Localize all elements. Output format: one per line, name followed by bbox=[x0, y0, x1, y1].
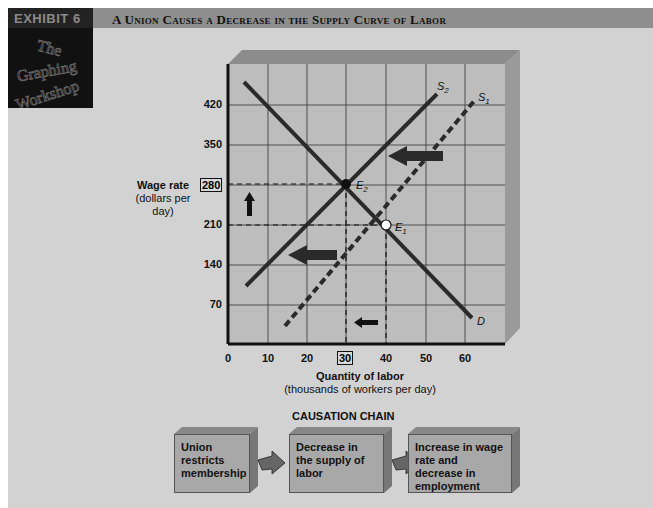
chain-step-3: Increase in wage rate and decrease in em… bbox=[408, 434, 512, 493]
chain-arrow-1 bbox=[258, 451, 285, 474]
chain-step-1: Union restricts membership bbox=[174, 434, 250, 493]
causation-chain-3d bbox=[0, 0, 653, 508]
chain-step-2: Decrease in the supply of labor bbox=[289, 434, 384, 493]
